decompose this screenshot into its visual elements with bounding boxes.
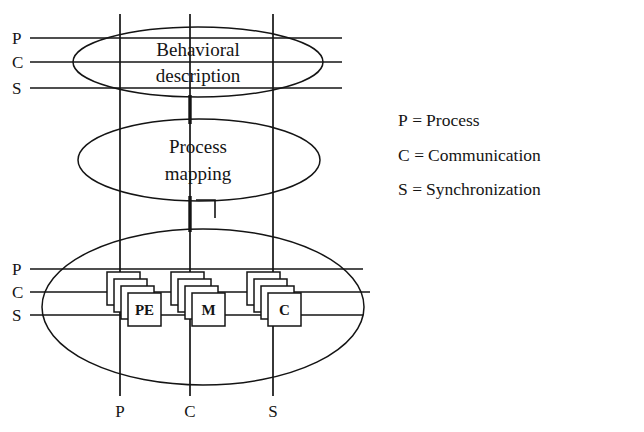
bottom-axis-label-c: C xyxy=(184,402,195,421)
c-box-label: C xyxy=(279,302,290,318)
pe-box-label: PE xyxy=(135,302,154,318)
legend-eq-s: = xyxy=(408,179,426,199)
component-stack-c: C xyxy=(247,272,301,326)
bottom-side-label-p: P xyxy=(12,260,21,279)
legend-key-c: C xyxy=(398,145,410,165)
process-line-2: mapping xyxy=(165,163,232,184)
top-side-axis-labels: P C S xyxy=(12,29,23,98)
legend-key-p: P xyxy=(398,110,408,130)
component-stack-pe: PE xyxy=(107,272,161,326)
behavioral-line-2: description xyxy=(156,65,241,86)
bottom-side-axis-labels: P C S xyxy=(12,260,23,325)
legend-eq-p: = xyxy=(408,110,426,130)
top-side-label-c: C xyxy=(12,53,23,72)
ellipse-process-mapping xyxy=(78,119,320,201)
process-line-1: Process xyxy=(169,136,227,157)
behavioral-line-1: Behavioral xyxy=(156,39,239,60)
connector-hook xyxy=(196,200,215,218)
process-mapping-label: Process mapping xyxy=(165,136,232,184)
bottom-side-label-c: C xyxy=(12,283,23,302)
top-side-label-p: P xyxy=(12,29,21,48)
legend-value-synchronization: Synchronization xyxy=(426,179,541,199)
layered-architecture-diagram: Behavioral description Process mapping P… xyxy=(0,0,644,432)
legend-row-synchronization: S=Synchronization xyxy=(398,181,638,199)
bottom-axis-label-s: S xyxy=(268,402,277,421)
top-side-label-s: S xyxy=(12,79,21,98)
component-stack-m: M xyxy=(171,272,225,326)
bottom-axis-labels: P C S xyxy=(115,402,277,421)
diagram-stage: Behavioral description Process mapping P… xyxy=(0,0,644,432)
legend-row-communication: C=Communication xyxy=(398,147,638,165)
legend-value-process: Process xyxy=(426,110,479,130)
legend-value-communication: Communication xyxy=(428,145,541,165)
legend: P=Process C=Communication S=Synchronizat… xyxy=(398,112,638,216)
legend-eq-c: = xyxy=(410,145,428,165)
m-box-label: M xyxy=(201,302,215,318)
legend-row-process: P=Process xyxy=(398,112,638,130)
bottom-side-label-s: S xyxy=(12,306,21,325)
bottom-axis-label-p: P xyxy=(115,402,124,421)
legend-key-s: S xyxy=(398,179,408,199)
